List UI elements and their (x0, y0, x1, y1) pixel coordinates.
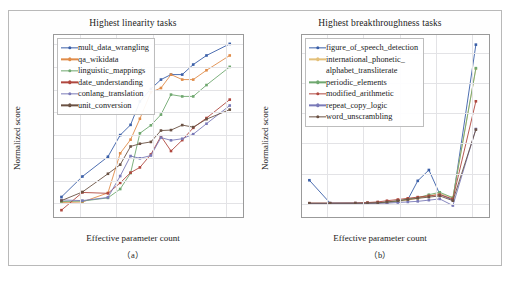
grid-line-horizontal (54, 203, 243, 204)
legend-item[interactable]: date_understanding (61, 77, 149, 89)
legend-label: international_phonetic_ (326, 54, 405, 66)
legend-label: mult_data_wrangling (78, 42, 149, 54)
y-tick-mark (53, 181, 54, 182)
chart-title-b: Highest breakthroughness tasks (257, 18, 503, 28)
data-point-marker (438, 195, 441, 198)
data-point-marker (475, 100, 478, 103)
data-point-marker (428, 196, 431, 199)
figure-container: Highest linearity tasks Normalized score… (8, 10, 502, 266)
y-tick-mark (53, 44, 54, 45)
y-axis-label-a: Normalized score (12, 78, 22, 198)
data-point-marker (192, 126, 195, 129)
data-point-marker (475, 128, 478, 131)
subcaption-a: （a） (9, 248, 257, 260)
data-point-marker (107, 172, 110, 175)
data-point-marker (452, 199, 455, 202)
legend-color-swatch-icon (61, 54, 78, 65)
data-point-marker (129, 124, 132, 127)
data-point-marker (81, 191, 84, 194)
grid-line-vertical (189, 35, 190, 217)
data-point-marker (119, 175, 122, 178)
x-axis-label-b: Effective parameter count (257, 233, 503, 243)
x-tick-mark (472, 217, 473, 218)
data-point-marker (170, 139, 173, 142)
legend-item[interactable]: word_unscrambling (309, 111, 418, 123)
y-tick-mark (53, 112, 54, 113)
x-tick-mark (327, 217, 328, 218)
data-point-marker (228, 108, 231, 111)
x-tick-mark (436, 217, 437, 218)
legend-item[interactable]: qa_wikidata (61, 54, 149, 66)
legend-color-swatch-icon (309, 88, 326, 99)
legend-label: date_understanding (78, 77, 143, 89)
legend-item[interactable]: conlang_translation (61, 88, 149, 100)
data-point-marker (475, 67, 478, 70)
y-tick-mark (301, 204, 302, 205)
data-point-marker (228, 98, 231, 101)
y-tick-mark (301, 143, 302, 144)
data-point-marker (129, 171, 132, 174)
legend-item[interactable]: mult_data_wrangling (61, 42, 149, 54)
grid-line-horizontal (302, 174, 489, 175)
data-point-marker (139, 117, 142, 120)
legend-item[interactable]: unit_conversion (61, 100, 149, 112)
data-point-marker (416, 180, 419, 183)
y-tick-mark (53, 135, 54, 136)
data-point-marker (205, 69, 208, 72)
data-point-marker (181, 73, 184, 76)
data-point-marker (119, 163, 122, 166)
legend-item[interactable]: figure_of_speech_detection (309, 42, 418, 54)
data-point-marker (60, 209, 63, 212)
y-tick-mark (301, 53, 302, 54)
legend-b: figure_of_speech_detectioninternational_… (305, 38, 424, 127)
x-tick-mark (116, 217, 117, 218)
grid-line-horizontal (302, 143, 489, 144)
grid-line-horizontal (302, 204, 489, 205)
data-point-marker (60, 199, 63, 202)
data-point-marker (205, 54, 208, 57)
y-axis-label-b: Normalized score (260, 78, 270, 198)
y-tick-mark (301, 174, 302, 175)
legend-color-swatch-icon (309, 54, 326, 65)
legend-label-continued: alphabet_transliterate (309, 65, 397, 77)
x-tick-mark (189, 217, 190, 218)
data-point-marker (170, 150, 173, 153)
legend-item-continuation: alphabet_transliterate (309, 65, 418, 77)
data-point-marker (160, 113, 163, 116)
data-point-marker (428, 199, 431, 202)
data-point-marker (170, 73, 173, 76)
data-point-marker (170, 129, 173, 132)
legend-item[interactable]: modified_arithmetic (309, 88, 418, 100)
data-point-marker (192, 95, 195, 98)
data-point-marker (192, 63, 195, 66)
data-point-marker (119, 182, 122, 185)
legend-label: linguistic_mappings (78, 65, 145, 77)
series-line (309, 130, 476, 204)
legend-item[interactable]: repeat_copy_logic (309, 100, 418, 112)
data-point-marker (205, 84, 208, 87)
chart-panel-a: Highest linearity tasks Normalized score… (9, 11, 257, 265)
data-point-marker (205, 122, 208, 125)
legend-label: modified_arithmetic (326, 88, 394, 100)
chart-panel-b: Highest breakthroughness tasks Normalize… (257, 11, 503, 265)
y-tick-mark (53, 67, 54, 68)
series-line (61, 100, 229, 211)
legend-a: mult_data_wranglingqa_wikidatalinguistic… (57, 38, 155, 115)
data-point-marker (438, 198, 441, 201)
data-point-marker (181, 124, 184, 127)
y-tick-mark (53, 90, 54, 91)
chart-title-a: Highest linearity tasks (9, 18, 257, 28)
data-point-marker (416, 197, 419, 200)
legend-item[interactable]: periodic_elements (309, 77, 418, 89)
data-point-marker (308, 179, 311, 182)
x-tick-mark (80, 217, 81, 218)
legend-color-swatch-icon (61, 88, 78, 99)
plot-area-a: mult_data_wranglingqa_wikidatalinguistic… (53, 34, 244, 218)
legend-item[interactable]: linguistic_mappings (61, 65, 149, 77)
subcaption-b: （b） (257, 248, 503, 260)
legend-item[interactable]: international_phonetic_ (309, 54, 418, 66)
plot-area-b: figure_of_speech_detectioninternational_… (301, 34, 490, 218)
x-tick-mark (226, 217, 227, 218)
data-point-marker (181, 78, 184, 81)
data-point-marker (81, 175, 84, 178)
